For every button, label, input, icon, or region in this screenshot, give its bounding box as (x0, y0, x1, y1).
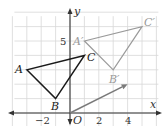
y-axis-down-arrow-icon (68, 119, 73, 125)
x-axis-right-arrow-icon (156, 111, 162, 116)
vertex-label-b-prime: B′ (108, 73, 120, 86)
y-axis-label: y (73, 5, 81, 18)
vertex-label-c: C (87, 51, 96, 64)
x-axis-left-arrow-icon (8, 111, 14, 116)
x-tick-label-4: 4 (125, 115, 131, 126)
y-tick-label-5: 5 (60, 36, 66, 47)
vertex-label-c-prime: C′ (144, 16, 155, 29)
y-axis-up-arrow-icon (68, 8, 73, 14)
vertex-label-a: A (14, 63, 23, 76)
coordinate-plane: x y O −2 2 4 5 A B C A′ B′ C′ (0, 0, 166, 126)
y-axis (68, 8, 73, 125)
x-tick-label-neg2: −2 (35, 115, 50, 126)
grid-lines (12, 12, 158, 126)
vertex-label-a-prime: A′ (72, 35, 84, 48)
x-axis (8, 111, 162, 116)
x-axis-label: x (150, 98, 157, 111)
origin-label: O (73, 114, 82, 126)
x-tick-label-2: 2 (96, 115, 102, 126)
vertex-label-b: B (50, 100, 59, 113)
